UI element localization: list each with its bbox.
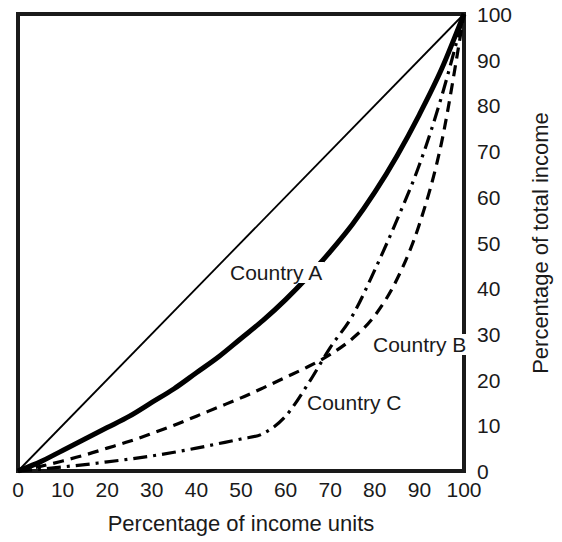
y-tick-0: 0 [477, 461, 489, 482]
y-tick-20: 20 [477, 369, 500, 390]
x-axis-title: Percentage of income units [108, 513, 375, 535]
y-tick-30: 30 [477, 323, 500, 344]
y-tick-80: 80 [477, 95, 500, 116]
x-tick-70: 70 [319, 479, 342, 500]
y-tick-50: 50 [477, 232, 500, 253]
y-tick-90: 90 [477, 49, 500, 70]
x-tick-20: 20 [96, 479, 119, 500]
x-tick-90: 90 [408, 479, 431, 500]
x-tick-0: 0 [12, 479, 24, 500]
series-label-country-a: Country A [228, 262, 324, 283]
x-tick-40: 40 [185, 479, 208, 500]
y-axis-title: Percentage of total income [530, 112, 552, 374]
y-tick-70: 70 [477, 141, 500, 162]
x-tick-60: 60 [274, 479, 297, 500]
lorenz-curve-chart: 0102030405060708090100 01020304050607080… [0, 0, 562, 542]
y-tick-60: 60 [477, 186, 500, 207]
y-tick-10: 10 [477, 415, 500, 436]
x-tick-30: 30 [140, 479, 163, 500]
x-tick-50: 50 [229, 479, 252, 500]
y-tick-100: 100 [477, 4, 512, 25]
series-label-country-b: Country B [371, 334, 468, 355]
x-tick-80: 80 [363, 479, 386, 500]
y-tick-40: 40 [477, 278, 500, 299]
series-label-country-c: Country C [305, 392, 404, 413]
x-tick-10: 10 [51, 479, 74, 500]
